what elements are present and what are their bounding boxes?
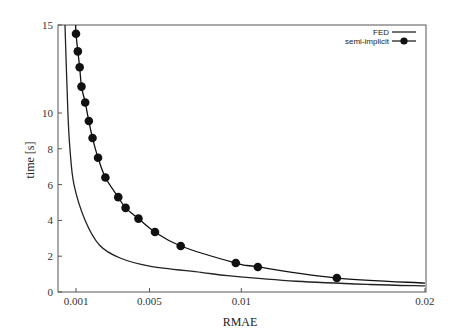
y-tick-label: 0 — [48, 286, 54, 298]
data-point-marker — [77, 82, 86, 91]
y-tick-label: 10 — [42, 107, 54, 119]
x-tick-label: 0.001 — [64, 295, 89, 307]
x-axis-title: RMAE — [223, 315, 258, 329]
y-tick-label: 8 — [48, 143, 54, 155]
data-point-marker — [232, 259, 241, 268]
series-line-FED — [65, 25, 425, 286]
y-tick-label: 6 — [48, 179, 54, 191]
y-tick-label: 4 — [48, 214, 54, 226]
series-line-semi-implicit — [76, 25, 425, 283]
legend: FED semi-implicit — [345, 28, 416, 46]
x-axis-ticks: 0.0010.0050.010.02 — [64, 288, 435, 307]
data-point-marker — [176, 242, 185, 251]
data-point-marker — [134, 214, 143, 223]
x-tick-label: 0.01 — [232, 295, 251, 307]
x-tick-label: 0.005 — [137, 295, 162, 307]
y-tick-label: 15 — [42, 19, 54, 31]
data-point-marker — [74, 47, 83, 56]
legend-label-fed: FED — [373, 28, 389, 37]
legend-marker-circle-icon — [400, 37, 407, 44]
data-point-marker — [85, 117, 94, 126]
data-point-marker — [88, 134, 97, 143]
legend-label-semi-implicit: semi-implicit — [345, 37, 390, 46]
data-point-marker — [94, 153, 103, 162]
y-tick-label: 2 — [48, 250, 54, 262]
y-axis-title: time [s] — [23, 142, 37, 179]
data-point-marker — [151, 228, 160, 237]
plot-frame — [58, 25, 426, 292]
data-point-marker — [101, 173, 110, 182]
data-point-marker — [75, 63, 84, 72]
data-point-marker — [114, 193, 123, 202]
data-point-marker — [81, 98, 90, 107]
chart: 0.0010.0050.010.02 024681015 RMAE time [… — [0, 0, 458, 334]
data-point-marker — [254, 263, 263, 272]
data-point-marker — [72, 30, 81, 39]
y-axis-ticks: 024681015 — [42, 19, 62, 298]
series-layer — [65, 25, 425, 286]
x-tick-label: 0.02 — [415, 295, 434, 307]
data-point-marker — [333, 274, 342, 283]
data-point-marker — [121, 204, 130, 213]
